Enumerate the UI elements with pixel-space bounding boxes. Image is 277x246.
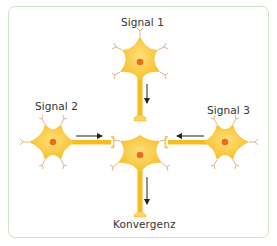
neuron-signal-3 bbox=[203, 115, 258, 169]
nucleus bbox=[137, 59, 144, 66]
axon-terminal-target bbox=[134, 212, 146, 217]
convergence-diagram bbox=[0, 0, 277, 246]
synapse-signal-1 bbox=[134, 115, 146, 121]
label-signal-2: Signal 2 bbox=[35, 100, 78, 112]
neuron-signal-2 bbox=[20, 115, 75, 169]
synapse-signal-2 bbox=[111, 137, 114, 149]
neuron-target bbox=[110, 135, 170, 173]
nucleus bbox=[50, 139, 57, 146]
nucleus bbox=[222, 139, 229, 146]
synapse-signal-3 bbox=[165, 137, 168, 149]
label-output: Konvergenz bbox=[113, 218, 176, 230]
label-signal-3: Signal 3 bbox=[207, 104, 250, 116]
neuron-signal-1 bbox=[112, 28, 168, 82]
nucleus bbox=[137, 152, 144, 159]
label-signal-1: Signal 1 bbox=[121, 16, 164, 28]
